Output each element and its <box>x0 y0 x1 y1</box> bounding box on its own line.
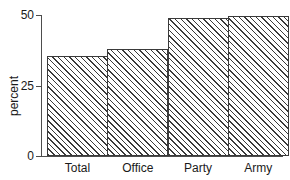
bar-total <box>47 56 108 156</box>
bar-party <box>168 18 229 156</box>
y-tick-label-50: 50 <box>0 9 34 21</box>
x-tick-label-army: Army <box>218 161 290 175</box>
bar-office <box>107 49 168 156</box>
bar-chart-figure: percent 50 25 0 Total Office Party Army <box>0 0 290 180</box>
x-axis-line <box>41 156 283 157</box>
y-tick-label-0: 0 <box>0 150 34 162</box>
y-tick-label-25: 25 <box>0 80 34 92</box>
plot-area <box>42 15 283 156</box>
y-axis-title: percent <box>7 61 21 131</box>
bar-army <box>228 16 289 156</box>
